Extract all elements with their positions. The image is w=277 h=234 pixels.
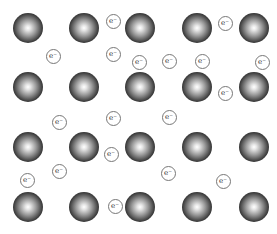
metal-ion bbox=[182, 132, 212, 162]
metal-ion bbox=[13, 13, 43, 43]
free-electron: e⁻ bbox=[104, 147, 119, 162]
metal-ion bbox=[182, 192, 212, 222]
metal-ion bbox=[125, 13, 155, 43]
free-electron: e⁻ bbox=[20, 173, 35, 188]
free-electron: e⁻ bbox=[132, 55, 147, 70]
metallic-bond-diagram: e⁻e⁻e⁻e⁻e⁻e⁻e⁻e⁻e⁻e⁻e⁻e⁻e⁻e⁻e⁻e⁻e⁻e⁻ bbox=[0, 0, 277, 234]
metal-ion bbox=[239, 192, 269, 222]
metal-ion bbox=[13, 132, 43, 162]
metal-ion bbox=[182, 13, 212, 43]
metal-ion bbox=[125, 72, 155, 102]
metal-ion bbox=[239, 132, 269, 162]
free-electron: e⁻ bbox=[106, 111, 121, 126]
free-electron: e⁻ bbox=[255, 55, 270, 70]
free-electron: e⁻ bbox=[46, 49, 61, 64]
metal-ion bbox=[239, 13, 269, 43]
metal-ion bbox=[13, 192, 43, 222]
free-electron: e⁻ bbox=[161, 166, 176, 181]
free-electron: e⁻ bbox=[106, 14, 121, 29]
free-electron: e⁻ bbox=[218, 16, 233, 31]
free-electron: e⁻ bbox=[52, 115, 67, 130]
free-electron: e⁻ bbox=[162, 110, 177, 125]
metal-ion bbox=[69, 13, 99, 43]
free-electron: e⁻ bbox=[106, 47, 121, 62]
free-electron: e⁻ bbox=[162, 54, 177, 69]
free-electron: e⁻ bbox=[195, 54, 210, 69]
free-electron: e⁻ bbox=[216, 174, 231, 189]
free-electron: e⁻ bbox=[108, 199, 123, 214]
metal-ion bbox=[125, 132, 155, 162]
free-electron: e⁻ bbox=[218, 86, 233, 101]
metal-ion bbox=[182, 72, 212, 102]
metal-ion bbox=[69, 72, 99, 102]
metal-ion bbox=[69, 192, 99, 222]
metal-ion bbox=[13, 72, 43, 102]
metal-ion bbox=[125, 192, 155, 222]
free-electron: e⁻ bbox=[52, 164, 67, 179]
metal-ion bbox=[69, 132, 99, 162]
metal-ion bbox=[239, 72, 269, 102]
